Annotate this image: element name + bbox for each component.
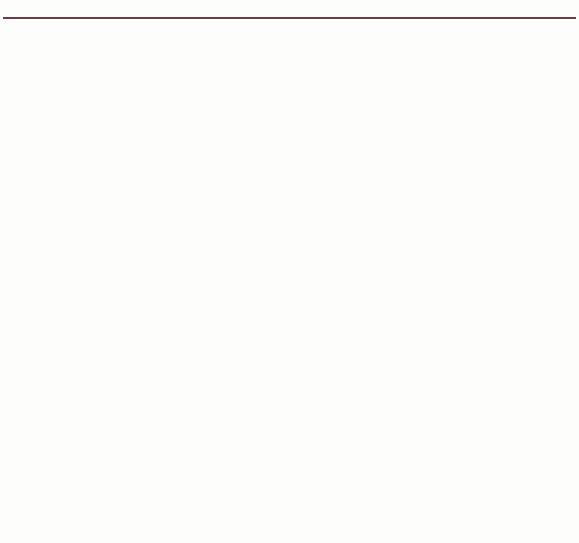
header-divider-rule (3, 17, 576, 19)
relevance-tree-figure (0, 0, 579, 543)
